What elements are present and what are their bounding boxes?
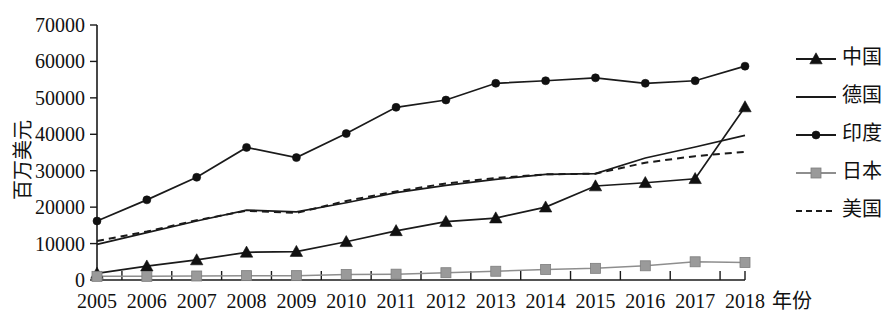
chart-canvas: 010000200003000040000500006000070000 200… (0, 0, 887, 313)
data-point-marker (242, 271, 252, 281)
legend-marker (811, 168, 821, 178)
x-tick-label: 2011 (376, 290, 415, 312)
legend-label[interactable]: 美国 (842, 198, 882, 220)
y-tick-label: 0 (75, 269, 85, 291)
data-point-marker (92, 271, 102, 281)
legend-marker (812, 131, 820, 139)
x-tick-label: 2017 (675, 290, 715, 312)
chart-legend: 中国德国印度日本美国 (796, 46, 882, 220)
data-markers-group (91, 62, 751, 281)
data-point-marker (539, 201, 551, 212)
data-point-marker (541, 264, 551, 274)
x-tick-label: 2015 (575, 290, 615, 312)
x-tick-label: 2005 (77, 290, 117, 312)
y-tick-label: 20000 (35, 196, 85, 218)
data-point-marker (341, 270, 351, 280)
x-tick-label: 2014 (526, 290, 566, 312)
data-point-marker (741, 62, 749, 70)
x-tick-label: 2016 (625, 290, 665, 312)
series-line (97, 66, 745, 221)
data-point-marker (740, 258, 750, 268)
data-point-marker (342, 130, 350, 138)
data-point-marker (143, 196, 151, 204)
data-point-marker (590, 263, 600, 273)
x-axis-title: 年份 (772, 290, 812, 312)
data-point-marker (142, 271, 152, 281)
axis-titles: 百万美元年份 (12, 120, 812, 312)
x-tick-label: 2007 (177, 290, 217, 312)
data-point-marker (591, 74, 599, 82)
data-point-marker (492, 79, 500, 87)
series-line (97, 152, 745, 241)
x-tick-label: 2013 (476, 290, 516, 312)
y-tick-label: 10000 (35, 233, 85, 255)
data-point-marker (491, 266, 501, 276)
data-point-marker (691, 77, 699, 85)
data-point-marker (690, 257, 700, 267)
data-point-marker (739, 101, 751, 112)
y-tick-label: 50000 (35, 87, 85, 109)
y-tick-label: 30000 (35, 160, 85, 182)
data-point-marker (641, 79, 649, 87)
y-tick-label: 40000 (35, 123, 85, 145)
data-point-marker (93, 217, 101, 225)
data-point-marker (391, 269, 401, 279)
x-tick-label: 2009 (276, 290, 316, 312)
data-point-marker (192, 271, 202, 281)
x-tick-label: 2008 (227, 290, 267, 312)
data-point-marker (243, 143, 251, 151)
data-point-marker (292, 154, 300, 162)
x-axis: 2005200620072008200920102011201220132014… (77, 271, 765, 312)
y-axis-title: 百万美元 (12, 120, 34, 200)
legend-label[interactable]: 中国 (842, 46, 882, 68)
legend-label[interactable]: 日本 (842, 160, 882, 182)
x-tick-label: 2010 (326, 290, 366, 312)
y-tick-label: 70000 (35, 14, 85, 36)
data-series-group (97, 66, 745, 276)
data-point-marker (689, 173, 701, 184)
data-point-marker (542, 77, 550, 85)
series-line (97, 107, 745, 273)
x-tick-label: 2018 (725, 290, 765, 312)
data-point-marker (291, 271, 301, 281)
line-chart: 010000200003000040000500006000070000 200… (0, 0, 887, 313)
data-point-marker (640, 261, 650, 271)
data-point-marker (442, 96, 450, 104)
legend-label[interactable]: 德国 (842, 84, 882, 106)
data-point-marker (392, 103, 400, 111)
series-line (97, 135, 745, 244)
y-axis: 010000200003000040000500006000070000 (35, 14, 97, 291)
data-point-marker (441, 268, 451, 278)
legend-label[interactable]: 印度 (842, 122, 882, 144)
x-tick-label: 2006 (127, 290, 167, 312)
x-tick-label: 2012 (426, 290, 466, 312)
data-point-marker (193, 173, 201, 181)
y-tick-label: 60000 (35, 50, 85, 72)
